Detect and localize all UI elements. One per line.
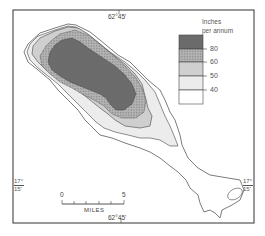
legend-title: Inches per annum [202,17,233,35]
right-latitude-min: 15' [243,186,253,193]
scale-start-label: 0 [60,191,64,198]
legend-value-40: 40 [210,86,218,93]
rainfall-map [0,0,265,236]
right-latitude-label: 17° 15' [243,178,253,193]
legend-value-60: 60 [210,58,218,65]
left-latitude-label: 17° 15' [14,178,24,193]
right-latitude-deg: 17° [243,178,253,185]
left-latitude-min: 15' [14,186,24,193]
left-latitude-deg: 17° [14,178,24,185]
legend-title-line1: Inches [202,17,233,26]
legend-swatches [179,35,207,104]
legend-title-line2: per annum [202,26,233,35]
bottom-longitude-label: 62°45' [108,214,126,221]
scale-end-label: 5 [122,191,126,198]
scale-unit-label: MILES [84,207,105,214]
legend-value-80: 80 [210,45,218,52]
legend-value-50: 50 [210,72,218,79]
top-longitude-label: 62°45' [108,13,126,20]
scale-bar [62,200,124,204]
